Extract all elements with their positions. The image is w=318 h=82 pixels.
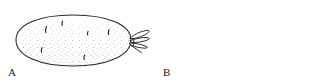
panel-a xyxy=(14,13,149,69)
sprout-shoot xyxy=(130,43,147,48)
illustration-canvas xyxy=(0,0,318,82)
figure-potato-tuber-illustration: A B xyxy=(0,0,318,82)
eye-mark xyxy=(84,55,85,60)
panel-b-label: B xyxy=(163,67,171,78)
sprout-base xyxy=(133,39,134,46)
tuber-a-sprout-cluster xyxy=(130,30,149,52)
eye-mark xyxy=(87,32,88,36)
panel-a-label: A xyxy=(8,67,16,78)
eye-mark xyxy=(62,21,63,26)
tuber-a-body xyxy=(14,13,134,69)
